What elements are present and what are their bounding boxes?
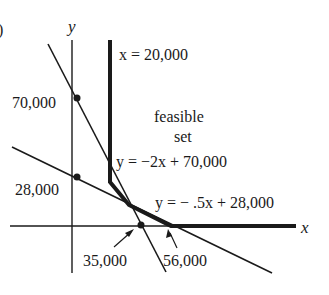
- y-intercept-70000-label: 70,000: [12, 94, 56, 111]
- steep-constraint-label: y = −2x + 70,000: [116, 153, 227, 171]
- dot-x-35000: [138, 222, 145, 229]
- vertical-constraint-label: x = 20,000: [119, 46, 188, 63]
- diagram-canvas: ) y x x = 20,000 feasible set y = −2x + …: [0, 0, 329, 295]
- part-marker: ): [0, 21, 3, 39]
- x-axis-label: x: [300, 218, 309, 237]
- dot-y-70000: [74, 95, 81, 102]
- feasible-set-diagram: ) y x x = 20,000 feasible set y = −2x + …: [0, 0, 329, 295]
- x-intercept-56000-label: 56,000: [163, 252, 207, 269]
- feasible-set-label-line1: feasible: [154, 108, 204, 125]
- y-intercept-28000-label: 28,000: [15, 181, 59, 198]
- shallow-constraint-label: y = − .5x + 28,000: [155, 194, 274, 212]
- y-axis-label: y: [66, 17, 76, 36]
- feasible-set-label-line2: set: [174, 128, 192, 145]
- dot-y-28000: [74, 174, 81, 181]
- x-intercept-35000-label: 35,000: [83, 252, 127, 269]
